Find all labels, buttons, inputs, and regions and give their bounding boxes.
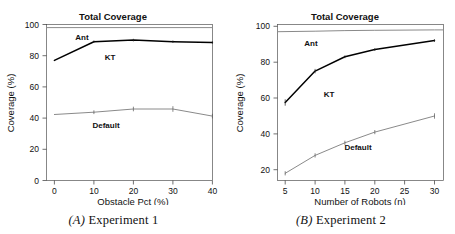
y-tick-label: 80 [261,57,271,67]
panel-experiment-2: Total Coverage 20 40 60 80 100 [227,0,455,234]
chart-title: Total Coverage [311,11,379,22]
x-tick-label: 10 [310,186,320,196]
series-group-kt [285,39,434,106]
x-tick-label: 25 [400,186,410,196]
y-tick-label: 20 [30,144,40,154]
panel-caption-a: (A) Experiment 1 [0,213,227,228]
y-tick-label: 100 [25,20,39,30]
series-line-kt [285,41,434,103]
x-tick-label: 10 [89,186,99,196]
caption-letter: (B) [296,213,313,227]
series-line-kt [54,40,212,60]
caption-text: Experiment 2 [316,213,386,227]
y-axis-label: Coverage (%) [234,74,245,133]
x-tick-label: 15 [340,186,350,196]
x-axis-label: Obstacle Pct (%) [97,196,168,205]
y-axis-group: 20 40 60 80 100 [256,21,278,174]
x-axis-group: 5 10 15 20 25 30 [283,181,440,197]
caption-letter: (A) [69,213,86,227]
series-label-kt: KT [324,90,335,99]
y-tick-label: 60 [261,93,271,103]
figure-two-panel-charts: Total Coverage 0 20 40 60 80 100 [0,0,455,234]
x-tick-label: 40 [208,186,218,196]
y-axis-group: 0 20 40 60 80 100 [25,20,47,186]
plot-frame [47,25,213,181]
chart-total-coverage-number-of-robots: Total Coverage 20 40 60 80 100 [227,0,455,205]
x-tick-label: 5 [283,186,288,196]
plot-frame [278,25,444,181]
x-tick-label: 0 [52,186,57,196]
series-label-ant: Ant [304,39,318,48]
x-axis-label: Number of Robots (n) [314,196,405,205]
x-tick-label: 30 [168,186,178,196]
chart-title: Total Coverage [79,11,147,22]
y-axis-label: Coverage (%) [5,74,16,133]
y-tick-label: 100 [256,21,270,31]
series-label-default: Default [92,121,119,130]
y-tick-label: 20 [261,165,271,175]
caption-text: Experiment 1 [88,213,158,227]
series-label-default: Default [344,143,371,152]
y-tick-label: 40 [30,113,40,123]
series-label-ant: Ant [75,33,89,42]
y-tick-label: 40 [261,129,271,139]
x-tick-label: 30 [430,186,440,196]
y-tick-label: 80 [30,51,40,61]
y-tick-label: 60 [30,82,40,92]
series-group-default [54,106,212,118]
series-label-kt: KT [105,53,116,62]
x-tick-label: 20 [370,186,380,196]
panel-caption-b: (B) Experiment 2 [227,213,455,228]
panel-experiment-1: Total Coverage 0 20 40 60 80 100 [0,0,227,234]
y-tick-label: 0 [34,176,39,186]
series-line-ant [278,30,444,32]
chart-total-coverage-obstacle-pct: Total Coverage 0 20 40 60 80 100 [0,0,227,205]
x-axis-group: 0 10 20 30 40 [52,181,217,197]
series-group-kt [54,39,212,61]
x-tick-label: 20 [129,186,139,196]
